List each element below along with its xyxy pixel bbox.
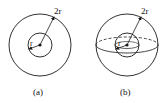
figure-b: 2r r (b) xyxy=(96,6,158,97)
outer-radius-arrow xyxy=(127,17,141,45)
figure-a: 2r r (a) xyxy=(9,6,71,97)
outer-radius-label: 2r xyxy=(141,6,149,16)
caption-a: (a) xyxy=(33,87,43,97)
inner-radius-label: r xyxy=(118,39,121,48)
outer-radius-label: 2r xyxy=(54,6,62,16)
caption-b: (b) xyxy=(120,87,131,97)
diagram-canvas: 2r r (a) 2r r (b) xyxy=(0,0,165,103)
outer-radius-arrow xyxy=(40,17,54,45)
inner-radius-label: r xyxy=(30,39,33,48)
